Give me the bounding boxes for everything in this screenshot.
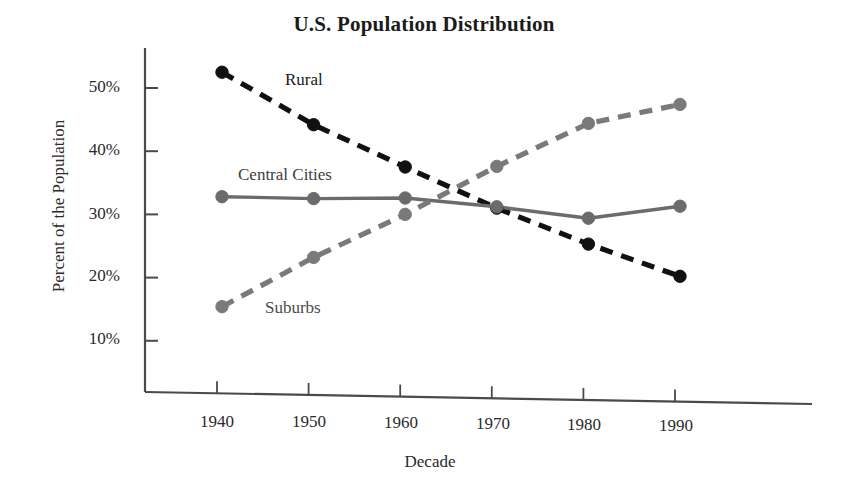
series-markers [216, 66, 686, 313]
plot-area [0, 0, 848, 499]
chart-figure: U.S. Population Distribution Percent of … [0, 0, 848, 499]
y-axis-ticks [145, 88, 158, 341]
x-axis-line [145, 392, 812, 404]
series-lines [222, 72, 680, 307]
